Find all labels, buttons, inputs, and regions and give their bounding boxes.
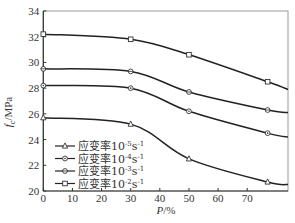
legend: 应变率10-5s-1应变率10-4s-1应变率10-3s-1应变率10-2s-1: [55, 139, 144, 191]
y-tick-label: 22: [28, 159, 39, 171]
series-line: [43, 85, 288, 137]
square-marker: [128, 37, 133, 42]
legend-item: 应变率10-5s-1: [55, 139, 144, 153]
x-tick-label: 30: [125, 192, 137, 204]
legend-item: 应变率10-2s-1: [55, 177, 144, 191]
x-axis-label: P/%: [156, 204, 176, 216]
series-circle: [41, 83, 288, 137]
y-tick-label: 26: [28, 108, 40, 120]
legend-item: 应变率10-4s-1: [55, 152, 144, 166]
legend-label: 应变率10-3s-1: [78, 164, 144, 178]
x-tick-label: 10: [67, 192, 79, 204]
square-marker: [265, 79, 270, 84]
legend-item: 应变率10-3s-1: [55, 164, 144, 178]
line-chart: 0102030405060702022242628303234 应变率10-5s…: [0, 0, 295, 223]
x-tick-label: 40: [154, 192, 166, 204]
legend-label: 应变率10-5s-1: [78, 139, 144, 153]
x-tick-label: 20: [96, 192, 108, 204]
y-tick-label: 30: [28, 56, 40, 68]
series-square: [41, 32, 288, 90]
x-tick-label: 60: [213, 192, 225, 204]
legend-label: 应变率10-2s-1: [78, 177, 144, 191]
square-marker: [187, 52, 192, 57]
y-tick-label: 32: [28, 31, 39, 43]
series-line: [43, 34, 288, 89]
square-marker: [63, 181, 68, 186]
square-marker: [41, 32, 46, 37]
x-tick-label: 70: [242, 192, 254, 204]
series-diamond: [41, 66, 288, 112]
y-tick-label: 34: [28, 5, 40, 17]
y-tick-label: 28: [28, 82, 40, 94]
y-axis-label: fc/MPa: [2, 97, 17, 128]
legend-label: 应变率10-4s-1: [78, 152, 144, 166]
y-tick-label: 24: [28, 134, 40, 146]
y-tick-label: 20: [28, 185, 40, 197]
x-tick-label: 50: [183, 192, 195, 204]
x-tick-label: 0: [41, 192, 47, 204]
